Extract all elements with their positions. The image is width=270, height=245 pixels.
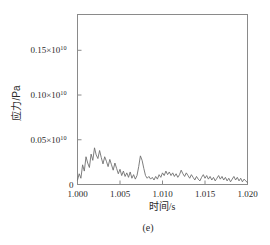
x-tick-label: 1.000 [67,189,88,199]
x-tick-label: 1.010 [152,189,173,199]
x-tick-label: 1.020 [237,189,258,199]
y-axis-title: 应力/Pa [10,85,22,120]
y-tick-label: 0 [69,180,74,190]
chart-background [0,0,270,245]
figure-container: 1.0001.0051.0101.0151.020 00.05×10100.10… [0,0,270,245]
stress-time-line-chart: 1.0001.0051.0101.0151.020 00.05×10100.10… [0,0,270,245]
x-tick-label: 1.005 [110,189,131,199]
x-tick-label: 1.015 [195,189,216,199]
figure-caption: (e) [142,222,153,234]
x-axis-title: 时间/s [149,200,176,212]
